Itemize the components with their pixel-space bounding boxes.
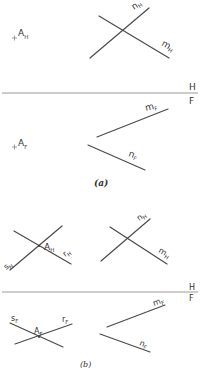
line-m-f — [97, 109, 168, 137]
descriptive-geometry-diagram: AH nH mH H F AF mF nF (a) AH sH rH — [0, 0, 202, 376]
label-b-a-f: AF — [34, 327, 43, 337]
part-b: AH sH rH nH mH H F AF sF rF mF nF (b) — [2, 210, 198, 369]
label-m-h: mH — [160, 38, 177, 54]
label-r-h: rH — [61, 247, 73, 259]
line-b-m-f — [107, 305, 165, 327]
label-n-f: nF — [127, 148, 139, 161]
fold-label-b-h: H — [189, 283, 195, 292]
label-a-f: AF — [18, 138, 27, 150]
label-n-h: nH — [129, 0, 143, 12]
line-r-f — [15, 324, 72, 344]
line-b-n-h — [101, 219, 150, 261]
label-s-f: sF — [11, 314, 18, 324]
caption-a: (a) — [94, 178, 108, 188]
point-a-f-marker — [12, 145, 17, 150]
caption-b: (b) — [80, 360, 91, 369]
label-r-f: rF — [62, 315, 68, 325]
line-m-h — [99, 16, 169, 58]
label-s-h: sH — [2, 259, 15, 272]
label-a-h: AH — [18, 28, 28, 40]
label-b-a-h: AH — [44, 242, 54, 253]
point-a-h — [38, 245, 40, 247]
part-a: AH nH mH H F AF mF nF (a) — [2, 0, 198, 188]
point-a-h-marker — [12, 36, 17, 41]
label-m-f: mF — [144, 100, 158, 114]
fold-label-b-f: F — [189, 294, 194, 303]
fold-label-h: H — [189, 82, 196, 92]
fold-label-f: F — [189, 96, 194, 106]
